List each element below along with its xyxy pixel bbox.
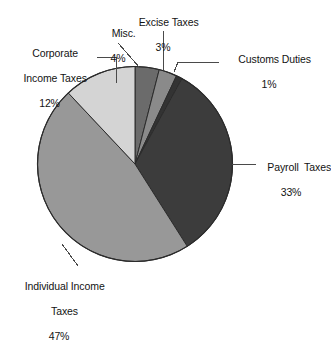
slice-label-customs: Customs Duties 1% bbox=[220, 40, 318, 115]
payroll-label-pct: 33% bbox=[256, 186, 326, 199]
slice-label-excise: Excise Taxes 3% bbox=[125, 3, 201, 78]
customs-label-pct: 1% bbox=[220, 78, 318, 91]
corporate-label-pct: 12% bbox=[2, 97, 97, 110]
slice-label-corporate: Corporate Income Taxes 12% bbox=[2, 34, 97, 134]
customs-label-line1: Customs Duties bbox=[238, 53, 311, 65]
slice-label-individual: Individual Income Taxes 47% bbox=[6, 267, 112, 344]
corporate-label-line2: Income Taxes bbox=[23, 72, 86, 84]
corporate-label-line1: Corporate bbox=[32, 47, 78, 59]
excise-label-pct: 3% bbox=[125, 41, 201, 54]
slice-label-payroll: Payroll Taxes 33% bbox=[256, 148, 326, 223]
individual-label-line2: Taxes bbox=[51, 305, 78, 317]
individual-label-pct: 47% bbox=[6, 330, 112, 343]
excise-label-line1: Excise Taxes bbox=[139, 16, 199, 28]
individual-label-line1: Individual Income bbox=[25, 280, 105, 292]
payroll-label-line1: Payroll Taxes bbox=[267, 161, 331, 173]
leader-line-individual bbox=[62, 244, 78, 266]
